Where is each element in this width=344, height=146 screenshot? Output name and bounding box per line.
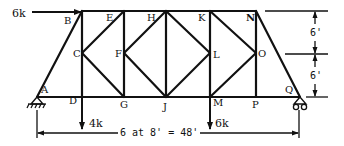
node-label-e: E [106,12,113,23]
node-label-a: A [40,84,49,95]
truss-diagram: 6k 4k 6k 6 at 8' = 48' 6' 6' A B C D E F [0,0,344,146]
horizontal-load-label: 6k [12,7,26,20]
diagonal-members [82,11,256,97]
node-label-n: N [246,12,255,23]
height-dimensions: 6' 6' [265,11,328,97]
node-label-o: O [258,48,266,59]
node-label-q: Q [285,84,293,95]
span-dimension-label: 6 at 8' = 48' [120,127,198,138]
node-label-k: K [198,12,206,23]
node-label-d: D [69,95,77,106]
node-label-l: L [213,49,220,60]
node-label-j: J [162,101,167,112]
node-label-p: P [252,99,259,110]
node-label-m: M [213,97,223,108]
right-vertical-load-label: 6k [215,117,229,130]
node-label-f: F [115,48,122,59]
node-label-h: H [147,12,156,23]
node-label-g: G [120,99,128,110]
span-dimension: 6 at 8' = 48' [37,110,299,138]
vertical-members [82,11,256,97]
upper-height-label: 6' [310,27,322,38]
left-vertical-load-arrow: 4k [82,97,103,130]
node-label-b: B [64,15,71,26]
pin-support-icon [27,97,46,108]
node-label-c: C [73,48,81,59]
lower-height-label: 6' [310,70,322,81]
left-vertical-load-label: 4k [89,117,103,130]
roller-support-icon [293,97,306,110]
